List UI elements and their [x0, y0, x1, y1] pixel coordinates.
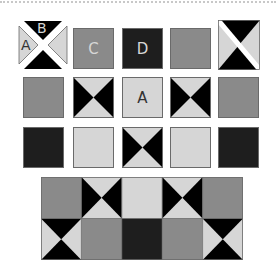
row2-hourglass-2: [73, 77, 114, 118]
square-d: D: [122, 28, 163, 69]
split-hourglass-piece-ab: B A: [18, 20, 68, 70]
diagonal-cut-hourglass-piece: [218, 20, 260, 70]
piece-label-a: A: [21, 37, 31, 53]
hourglass-icon: [170, 77, 211, 118]
assembled-quilt-block: [41, 177, 243, 260]
row3-square-5: [218, 127, 259, 168]
square-c: C: [73, 28, 114, 69]
row3-square-4: [170, 127, 211, 168]
row2-hourglass-4: [170, 77, 211, 118]
row2-square-5: [218, 77, 259, 118]
row2-square-a: A: [122, 77, 163, 118]
square-plain-mid: [170, 28, 211, 69]
quilt-block-diagram: [41, 177, 243, 260]
diagonal-cut-hourglass-icon: [218, 20, 260, 70]
row2-square-1: [23, 77, 64, 118]
hourglass-icon: [73, 77, 114, 118]
square-d-label: D: [123, 40, 162, 58]
hourglass-icon: [122, 127, 163, 168]
row3-square-1: [23, 127, 64, 168]
square-c-label: C: [74, 40, 113, 58]
top-dotted-border: [0, 1, 276, 3]
row3-square-2: [73, 127, 114, 168]
row3-hourglass-3: [122, 127, 163, 168]
row2-square-a-label: A: [123, 89, 162, 107]
piece-label-b: B: [37, 20, 47, 36]
